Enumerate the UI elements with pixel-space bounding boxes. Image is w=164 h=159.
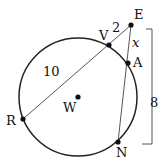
point-n [115, 139, 120, 144]
secant-re [23, 25, 131, 119]
measure-rv: 10 [43, 64, 60, 79]
label-n: N [116, 145, 127, 159]
measure-ea: x [132, 35, 140, 50]
measure-ve: 2 [112, 20, 120, 35]
point-v [106, 42, 111, 47]
point-a [125, 60, 130, 65]
label-v: V [98, 28, 109, 43]
secant-ne [118, 25, 131, 142]
label-r: R [6, 113, 17, 128]
point-r [20, 116, 25, 121]
point-w [75, 94, 80, 99]
bracket-en [142, 29, 152, 144]
label-e: E [134, 7, 144, 22]
label-a: A [132, 55, 143, 70]
geometry-diagram: E V A R N W 10 2 x 8 [0, 0, 164, 159]
point-e [128, 22, 133, 27]
label-w: W [63, 100, 77, 115]
measure-en: 8 [150, 95, 158, 110]
